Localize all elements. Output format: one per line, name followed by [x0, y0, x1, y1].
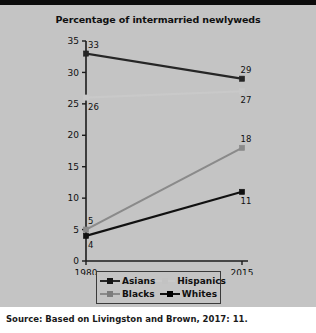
data-point-marker	[239, 89, 244, 94]
legend-item-hispanics[interactable]: Hispanics	[155, 276, 226, 286]
data-point-label: 4	[88, 240, 93, 250]
legend-label-hispanics: Hispanics	[177, 276, 226, 286]
y-tick-label: 0	[73, 256, 79, 266]
legend-row: Blacks Whites	[100, 287, 217, 300]
chart-legend: Asians Hispanics Blacks	[96, 271, 221, 304]
chart-title: Percentage of intermarried newlyweds	[0, 14, 316, 25]
series-line-hispanics	[86, 91, 242, 97]
data-point-marker	[239, 145, 244, 150]
legend-label-whites: Whites	[182, 289, 217, 299]
data-point-label: 26	[88, 102, 99, 112]
x-tick-label: 2015	[231, 268, 254, 275]
legend-swatch-blacks	[100, 289, 120, 298]
data-point-label: 11	[241, 196, 252, 206]
legend-item-blacks[interactable]: Blacks	[100, 289, 160, 299]
data-point-marker	[83, 51, 88, 56]
data-point-label: 29	[241, 65, 252, 75]
y-tick-label: 10	[68, 193, 80, 203]
source-caption: Source: Based on Livingston and Brown, 2…	[6, 314, 248, 324]
legend-item-whites[interactable]: Whites	[160, 289, 217, 299]
legend-item-asians[interactable]: Asians	[100, 276, 155, 286]
y-tick-label: 5	[73, 225, 79, 235]
legend-row: Asians Hispanics	[100, 274, 217, 287]
chart-panel: Percentage of intermarried newlyweds 051…	[0, 5, 316, 307]
series-line-asians	[86, 54, 242, 79]
data-point-marker	[83, 95, 88, 100]
y-tick-label: 35	[68, 36, 79, 46]
data-point-label: 27	[241, 95, 252, 105]
legend-label-asians: Asians	[122, 276, 155, 286]
series-line-whites	[86, 192, 242, 236]
data-point-label: 33	[88, 40, 99, 50]
legend-swatch-asians	[100, 276, 120, 285]
line-chart-plot: 051015202530351980201526275183329411	[0, 27, 316, 275]
x-tick-label: 1980	[75, 268, 98, 275]
data-point-marker	[239, 189, 244, 194]
y-tick-label: 25	[68, 99, 79, 109]
y-tick-label: 15	[68, 162, 79, 172]
y-tick-label: 20	[68, 130, 80, 140]
series-line-blacks	[86, 148, 242, 230]
data-point-label: 18	[241, 134, 252, 144]
legend-label-blacks: Blacks	[122, 289, 155, 299]
y-tick-label: 30	[68, 68, 80, 78]
data-point-label: 5	[88, 216, 93, 226]
legend-swatch-whites	[160, 289, 180, 298]
data-point-marker	[239, 76, 244, 81]
figure-container: Percentage of intermarried newlyweds 051…	[0, 0, 316, 333]
data-point-marker	[83, 233, 88, 238]
legend-swatch-hispanics	[155, 276, 175, 285]
data-point-marker	[83, 227, 88, 232]
